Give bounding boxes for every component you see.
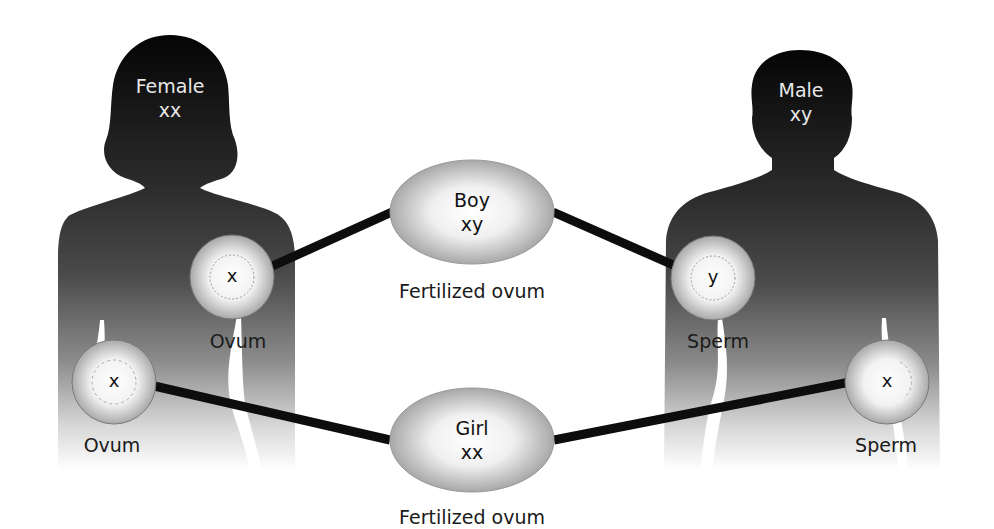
girl-caption: Fertilized ovum [399,506,545,528]
boy-title: Boy [454,188,490,212]
connector-sperm-y-to-boy [553,212,680,268]
male-chromosomes: xy [778,102,823,126]
male-title: Male [778,78,823,102]
female-title: Female [136,74,205,98]
sperm-upper-chromosome: y [708,266,719,287]
sex-determination-diagram: Female xx Male xy x x y x Ovum Ovum Sper… [0,0,994,529]
ovum-upper-label: Ovum [210,330,267,352]
sperm-lower-chromosome: x [882,370,893,391]
male-label: Male xy [778,78,823,126]
boy-ovum-label: Boy xy [454,188,490,236]
sperm-lower-label: Sperm [855,434,917,456]
ovum-lower-chromosome: x [109,370,120,391]
boy-caption: Fertilized ovum [399,280,545,302]
sperm-upper-label: Sperm [687,330,749,352]
female-chromosomes: xx [136,98,205,122]
girl-chromosomes: xx [455,440,488,464]
ovum-lower-label: Ovum [84,434,141,456]
female-label: Female xx [136,74,205,122]
boy-chromosomes: xy [454,212,490,236]
girl-title: Girl [455,416,488,440]
girl-ovum-label: Girl xx [455,416,488,464]
ovum-upper-chromosome: x [227,265,238,286]
